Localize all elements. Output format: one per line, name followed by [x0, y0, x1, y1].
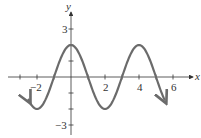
chart-svg: y x −2 2 4 6 3 −3 [0, 0, 201, 138]
y-tick-label-3: 3 [62, 23, 68, 35]
x-tick-label-neg2: −2 [30, 81, 42, 93]
x-tick-label-6: 6 [171, 81, 177, 93]
x-tick-label-4: 4 [137, 81, 143, 93]
y-tick-label-neg3: −3 [55, 119, 67, 131]
x-tick-label-2: 2 [103, 81, 109, 93]
x-axis-label: x [194, 70, 200, 82]
y-axis-label: y [65, 0, 71, 12]
